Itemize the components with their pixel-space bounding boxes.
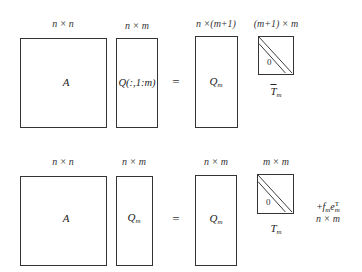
matrix-T: 0: [257, 174, 294, 214]
tridiagonal-band-icon: [258, 175, 293, 213]
equals-sign-top: =: [172, 74, 179, 90]
matrix-Tbar-label: Tm: [270, 85, 281, 99]
equals-sign-bottom: =: [172, 211, 179, 227]
matrix-Qm-right-label: Qm: [209, 212, 222, 226]
dim-label-T: m × m: [263, 156, 289, 167]
residual-term: +fmemT: [317, 200, 339, 214]
dim-label-A-bottom: n × n: [52, 156, 74, 167]
tridiagonal-band-icon: [259, 37, 293, 74]
matrix-Qm-top-label: Qm: [209, 75, 222, 89]
dim-label-Tbar: (m+1) × m: [254, 18, 299, 29]
matrix-T-label: Tm: [270, 222, 281, 236]
dim-label-Qm-right: n × m: [204, 156, 228, 167]
matrix-Q-slice-label: Q(:,1:m): [118, 77, 155, 88]
matrix-A-top-label: A: [63, 76, 70, 88]
matrix-A-bottom-label: A: [63, 212, 70, 224]
dim-label-Qm-left: n × m: [122, 156, 146, 167]
dim-label-Qm-top: n ×(m+1): [196, 18, 236, 29]
zero-label-bottom: 0: [266, 197, 271, 207]
dim-label-Q-slice: n × m: [125, 20, 149, 31]
zero-label-top: 0: [267, 57, 272, 67]
dim-label-residual: n × m: [316, 213, 340, 224]
matrix-Tbar: 0: [258, 36, 294, 75]
matrix-Qm-left-label: Qm: [127, 211, 140, 225]
dim-label-A-top: n × n: [52, 18, 74, 29]
